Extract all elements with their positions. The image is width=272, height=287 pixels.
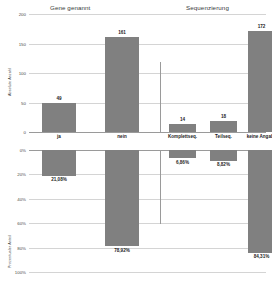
- bar-label-absolute-teilseq: 18: [221, 114, 226, 119]
- bar-percent-teilseq[interactable]: [210, 150, 237, 161]
- y-tick-0-percent: 0%: [20, 148, 26, 153]
- bar-label-absolute-nein: 161: [118, 30, 126, 35]
- bar-label-absolute-ja: 49: [56, 96, 61, 101]
- bar-absolute-nein[interactable]: [105, 37, 139, 132]
- panel-divider-top: [160, 62, 161, 132]
- bar-absolute-teilseq[interactable]: [210, 121, 237, 132]
- bar-absolute-ja[interactable]: [42, 103, 76, 132]
- gridline-0: 0: [29, 132, 266, 133]
- bar-label-percent-komplettseq: 6,86%: [176, 160, 189, 165]
- bar-percent-nein[interactable]: [105, 150, 139, 246]
- gridline-100: 100: [29, 73, 266, 74]
- y-axis-title-absolute: Absolute Anzahl: [8, 68, 12, 96]
- bar-label-absolute-komplettseq: 14: [180, 117, 185, 122]
- category-axis-labels: ja nein Komplettseq. Teilseq. keine Anga…: [29, 134, 266, 144]
- y-axis-title-percent: Prozentualer Anteil: [8, 235, 12, 268]
- y-tick-40-percent: 40%: [17, 196, 26, 201]
- bar-label-percent-ja: 21,08%: [51, 177, 67, 182]
- gridline-150: 150: [29, 44, 266, 45]
- y-tick-80-percent: 80%: [17, 245, 26, 250]
- panel-divider-bottom: [160, 150, 161, 224]
- y-tick-200: 200: [19, 12, 26, 17]
- y-tick-50: 50: [21, 100, 26, 105]
- panel-percent: 0% 20% 40% 60% 80% 100% 21,08% 78,92%: [29, 150, 266, 272]
- category-label-nein: nein: [117, 134, 126, 139]
- bar-label-absolute-keine-angabe: 172: [258, 24, 266, 29]
- gridline-40-percent: 40%: [29, 199, 266, 200]
- bar-percent-keine-angabe[interactable]: [248, 150, 272, 253]
- category-label-komplettseq: Komplettseq.: [168, 134, 197, 139]
- gridline-100-percent: 100%: [29, 272, 266, 273]
- y-tick-20-percent: 20%: [17, 172, 26, 177]
- bar-absolute-keine-angabe[interactable]: [248, 31, 272, 133]
- plot-area-percent: 0% 20% 40% 60% 80% 100% 21,08% 78,92%: [29, 150, 266, 272]
- bar-percent-ja[interactable]: [42, 150, 76, 176]
- y-tick-150: 150: [19, 41, 26, 46]
- bar-absolute-komplettseq[interactable]: [169, 124, 196, 132]
- group-header-sequenzierung: Sequenzierung: [186, 4, 229, 11]
- chart-container: Gene genannt Sequenzierung Absolute Anza…: [0, 0, 272, 287]
- y-tick-0: 0: [24, 130, 26, 135]
- gridline-80-percent: 80%: [29, 248, 266, 249]
- y-tick-100: 100: [19, 71, 26, 76]
- plot-area-absolute: 200 150 100 50 0 49 161 14 18: [29, 14, 266, 132]
- gridline-200: 200: [29, 14, 266, 15]
- bar-label-percent-nein: 78,92%: [114, 248, 130, 253]
- bar-label-percent-keine-angabe: 84,31%: [254, 254, 270, 259]
- y-tick-100-percent: 100%: [15, 270, 26, 275]
- bar-label-percent-teilseq: 8,82%: [217, 162, 230, 167]
- category-label-ja: ja: [57, 134, 61, 139]
- category-label-teilseq: Teilseq.: [215, 134, 232, 139]
- panel-absolute-counts: 200 150 100 50 0 49 161 14 18: [29, 14, 266, 132]
- category-label-keine-angabe: keine Angabe: [247, 134, 272, 139]
- bar-percent-komplettseq[interactable]: [169, 150, 196, 158]
- y-tick-60-percent: 60%: [17, 221, 26, 226]
- group-header-gene-genannt: Gene genannt: [50, 4, 90, 11]
- gridline-60-percent: 60%: [29, 223, 266, 224]
